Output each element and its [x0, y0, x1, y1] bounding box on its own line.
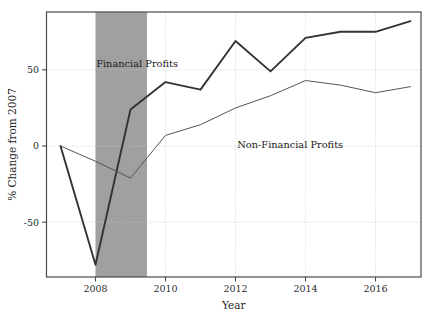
series-annotation-non-financial-profits: Non-Financial Profits: [237, 139, 343, 150]
xtick-label-2008: 2008: [83, 283, 107, 294]
y-axis-title: % Change from 2007: [6, 88, 18, 201]
xtick-label-2016: 2016: [363, 283, 387, 294]
xtick-label-2012: 2012: [223, 283, 247, 294]
xtick-label-2010: 2010: [153, 283, 177, 294]
chart-container: -5005020082010201220142016Year% Change f…: [0, 0, 433, 316]
x-axis-title: Year: [221, 299, 246, 311]
xtick-label-2014: 2014: [293, 283, 317, 294]
series-annotation-financial-profits: Financial Profits: [96, 58, 178, 69]
ytick-label-0: 0: [33, 140, 39, 151]
recession-band: [96, 12, 147, 277]
ytick-label--50: -50: [24, 217, 39, 228]
ytick-label-50: 50: [27, 64, 39, 75]
profits-line-chart: -5005020082010201220142016Year% Change f…: [0, 0, 433, 316]
